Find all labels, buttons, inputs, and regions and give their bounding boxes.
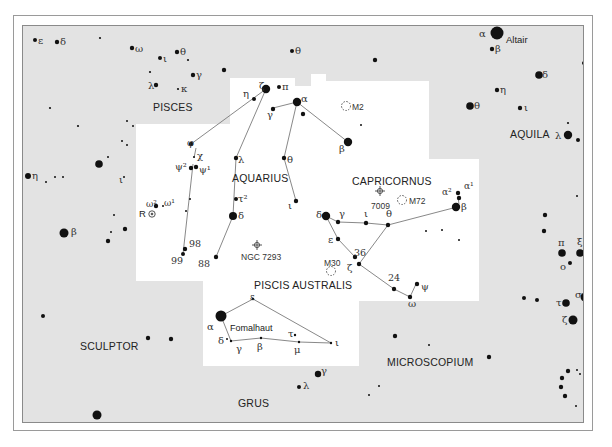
greek-psa-gamma: γ [236, 344, 242, 354]
greek-cap-iota: ι [364, 209, 368, 219]
label-aqr-88: 88 [198, 259, 210, 269]
label-piscis-australis: PISCIS AUSTRALIS [254, 280, 352, 291]
greek-aqr-alpha: α [301, 94, 308, 104]
greek-psa-delta: δ [218, 336, 224, 346]
greek-aqr-chi: χ [197, 151, 203, 161]
greek-aquila-eta: η [500, 85, 506, 95]
greek-cap-psi: ψ [421, 282, 429, 292]
greek-cap-beta: β [461, 202, 467, 212]
greek-sgr-sigma: σ [575, 290, 582, 300]
greek-psa-mu: μ [294, 345, 301, 355]
greek-sgr-zeta: ζ [562, 315, 567, 325]
label-sculptor: SCULPTOR [80, 341, 139, 352]
greek-sgr-omicron: ο [560, 262, 566, 272]
greek-aqr-pi: π [282, 82, 289, 92]
greek-sgr-xi: ξ [577, 237, 583, 247]
greek-cap-theta: θ [386, 209, 392, 219]
greek-pisces-iota: ι [163, 54, 167, 64]
greek-cap-gamma: γ [339, 209, 345, 219]
greek-pisces-gamma: γ [196, 70, 202, 80]
greek-aquila-iota: ι [524, 103, 528, 113]
greek-aquila-alpha: α [479, 29, 486, 39]
greek-aqr-theta: θ [287, 155, 293, 165]
greek-aqr-eta: η [243, 89, 249, 99]
label-m30: M30 [324, 259, 341, 268]
greek-cetus-eta: η [32, 171, 38, 181]
label-aquila: AQUILA [510, 129, 550, 140]
greek-aqr-phi: φ [187, 138, 194, 148]
greek-sgr-tau: τ [556, 298, 562, 308]
greek-aqr-psi2: ψ² [175, 162, 187, 172]
greek-cap-epsilon: ε [328, 235, 333, 245]
greek-aquila-lambda: λ [555, 131, 561, 141]
greek-aqr-iota: ι [288, 201, 292, 211]
highlight-region [136, 74, 479, 366]
label-aqr-99: 99 [171, 256, 183, 266]
greek-pisces-epsilon: ε [38, 36, 43, 46]
greek-pisces-omega: ω [135, 44, 143, 54]
greek-aqr-psi1: ψ¹ [199, 165, 211, 175]
greek-aquila-beta: β [495, 44, 501, 54]
greek-cap-alpha1: α¹ [464, 182, 474, 191]
greek-psa-epsilon: ε [250, 293, 255, 302]
greek-psa-iota: ι [335, 338, 339, 348]
greek-aqr-tau2: τ² [238, 194, 248, 204]
label-aqr-98: 98 [189, 239, 201, 249]
greek-grus-gamma: γ [321, 366, 327, 376]
greek-cap-alpha2: α² [442, 188, 452, 197]
greek-aqr-omega1: ω¹ [164, 199, 175, 208]
greek-sculptor-iota: ι [119, 175, 123, 185]
greek-pisces-kappa: κ [181, 84, 187, 94]
label-altair: Altair [506, 35, 528, 45]
label-m2: M2 [352, 103, 364, 112]
greek-pisces-delta: δ [60, 37, 66, 47]
greek-psa-alpha: α [207, 322, 214, 332]
greek-pegasus-theta: θ [295, 46, 301, 56]
label-cap-24: 24 [388, 273, 400, 283]
star-chart-graphics [23, 26, 583, 422]
label-grus: GRUS [238, 398, 269, 409]
greek-cap-omega: ω [408, 299, 416, 309]
greek-aqr-omega2: ω² [146, 200, 157, 209]
label-cap-36: 36 [354, 248, 366, 258]
greek-cap-delta: δ [316, 210, 322, 220]
greek-sculptor-beta: β [71, 227, 77, 237]
label-fomalhaut: Fomalhaut [230, 324, 273, 333]
greek-aqr-beta: β [339, 144, 345, 154]
greek-pisces-lambda: λ [148, 81, 154, 91]
label-ngc7293: NGC 7293 [241, 253, 281, 262]
greek-aquila-delta: δ [542, 70, 548, 80]
greek-grus-lambda: λ [303, 381, 309, 391]
greek-sgr-pi: π [558, 238, 565, 248]
greek-pisces-theta: θ [180, 47, 186, 57]
label-pisces: PISCES [153, 102, 193, 113]
label-capricornus: CAPRICORNUS [352, 176, 432, 187]
greek-aqr-gamma: γ [267, 110, 273, 120]
label-aquarius: AQUARIUS [232, 173, 288, 184]
greek-aqr-delta: δ [238, 211, 244, 221]
greek-cap-zeta: ζ [347, 263, 352, 273]
greek-aqr-zeta: ζ [259, 81, 264, 91]
greek-aqr-lambda: λ [238, 155, 244, 165]
label-r-aquarii: R [139, 209, 146, 219]
greek-psa-tau: τ [288, 329, 294, 339]
star-chart: PISCES AQUILA AQUARIUS CAPRICORNUS PISCI… [22, 25, 584, 423]
greek-psa-beta: β [257, 342, 263, 352]
greek-aquila-theta: θ [474, 101, 480, 111]
label-microscopium: MICROSCOPIUM [387, 357, 473, 368]
label-m72: M72 [409, 197, 426, 206]
